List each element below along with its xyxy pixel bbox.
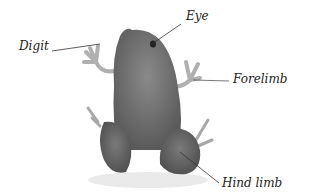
label-hind-limb: Hind limb — [222, 176, 282, 190]
frog-diagram: Digit Eye Forelimb Hind limb — [0, 0, 310, 195]
frog-illustration — [0, 0, 310, 195]
label-digit: Digit — [19, 39, 49, 53]
left-forelimb — [84, 46, 118, 71]
label-eye: Eye — [186, 9, 209, 23]
label-forelimb: Forelimb — [233, 72, 287, 86]
